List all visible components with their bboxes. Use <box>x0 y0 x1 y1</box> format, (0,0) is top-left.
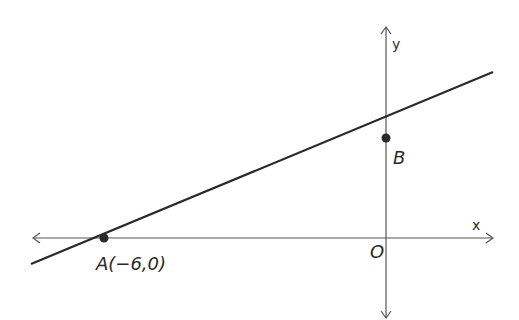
point-a <box>100 234 109 243</box>
y-axis <box>381 27 391 318</box>
line-ab <box>31 72 493 264</box>
point-a-label: A(−6,0) <box>95 253 166 274</box>
point-b <box>382 134 391 143</box>
origin-label: O <box>370 241 384 262</box>
y-axis-label: y <box>392 36 400 52</box>
coordinate-diagram: y x O A(−6,0) B <box>0 0 519 320</box>
point-b-label: B <box>393 147 405 168</box>
x-axis-label: x <box>472 217 480 233</box>
